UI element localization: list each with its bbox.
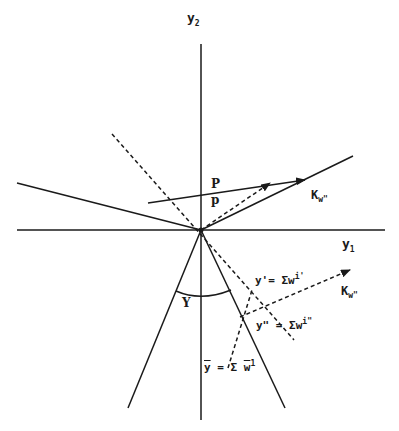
- y-bar-sup: 1: [250, 359, 255, 368]
- y2-label-subscript: 2: [195, 19, 200, 28]
- y1-label-base: y: [342, 236, 350, 251]
- K-lower-subscript: w": [348, 291, 358, 300]
- y-bar-symbol: y: [204, 361, 211, 374]
- upper-right-boundary-line: [201, 156, 353, 230]
- y2-axis-label: y2: [187, 11, 200, 28]
- lower-left-cone-line: [128, 230, 201, 408]
- y-double-prime-text: y" = Σw: [256, 319, 302, 332]
- y-double-prime-sup: i": [302, 317, 312, 326]
- dashed-diagonal-line: [112, 134, 294, 340]
- y2-label-base: y: [187, 10, 195, 25]
- y1-axis-label: y1: [342, 237, 355, 254]
- y-prime-sup: i': [295, 272, 305, 281]
- diagram-canvas: [0, 0, 399, 431]
- y-prime-text: y'= Σw: [255, 274, 295, 287]
- gamma-label: Y: [182, 297, 191, 309]
- K-upper-subscript: w": [318, 195, 328, 204]
- y-prime-equation: y'= Σwi': [255, 273, 304, 286]
- K-w-lower-label: Kw": [341, 285, 358, 300]
- upper-left-boundary-line: [17, 183, 201, 230]
- y-bar-equals-sigma: = Σ: [211, 361, 244, 374]
- p-label: p: [211, 194, 219, 206]
- K-w-upper-label: Kw": [311, 189, 328, 204]
- y1-label-subscript: 1: [350, 245, 355, 254]
- y-bar-equation: y = Σ w1: [204, 360, 255, 373]
- P-label: P: [211, 178, 220, 190]
- origin-point: [199, 228, 204, 233]
- y-double-prime-equation: y" = Σwi": [256, 318, 312, 331]
